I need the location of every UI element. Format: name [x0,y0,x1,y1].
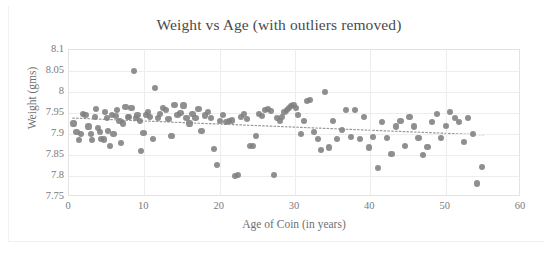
scatter-point [415,135,421,141]
scatter-point [78,131,84,137]
scatter-point [118,140,124,146]
y-axis-label: Weight (gms) [26,38,38,158]
gridline-vertical [370,50,371,195]
scatter-point [375,165,381,171]
scatter-point [434,111,440,117]
scatter-point [97,129,103,135]
scatter-point [126,114,132,120]
scatter-point [101,136,107,142]
scatter-point [131,68,137,74]
page-edge-left [8,6,9,242]
scatter-point [397,118,403,124]
scatter-point [352,107,358,113]
scatter-point [461,139,467,145]
scatter-point [208,115,214,121]
scatter-point [366,144,372,150]
scatter-point [171,102,177,108]
scatter-point [295,112,301,118]
scatter-point [250,143,256,149]
scatter-point [420,152,426,158]
scatter-point [334,136,340,142]
scatter-point [315,136,321,142]
scatter-point [211,146,217,152]
scatter-point [217,118,223,124]
chart-title: Weight vs Age (with outliers removed) [0,16,558,34]
scatter-point [311,129,317,135]
scatter-point [339,127,345,133]
x-tick-label: 30 [274,200,314,211]
scatter-point [348,134,354,140]
scatter-point [470,131,476,137]
scatter-point [465,115,471,121]
gridline-horizontal [69,92,519,93]
scatter-point [180,102,186,108]
scatter-point [186,120,192,126]
x-axis-tick-labels: 0102030405060 [68,200,520,214]
gridline-vertical [295,50,296,195]
scatter-point [107,143,113,149]
x-tick-label: 60 [500,200,540,211]
scatter-point [343,107,349,113]
scatter-point [165,116,171,122]
scatter-point [379,119,385,125]
scatter-point [229,117,235,123]
scatter-point [447,109,453,115]
scatter-point [134,112,140,118]
gridline-horizontal [69,134,519,135]
scatter-point [268,108,274,114]
scatter-point [220,112,226,118]
scatter-point [456,119,462,125]
scatter-point [253,133,259,139]
scatter-point [120,120,126,126]
scatter-point [318,147,324,153]
scatter-point [114,107,120,113]
scatter-point [244,116,250,122]
scatter-point [235,172,241,178]
scatter-point [424,144,430,150]
scatter-point [429,119,435,125]
plot-area [68,49,520,196]
scatter-point [259,113,265,119]
scatter-point [128,105,134,111]
scatter-point [214,162,220,168]
scatter-point [70,120,76,126]
scatter-point [198,128,204,134]
gridline-horizontal [69,155,519,156]
scatter-point [406,114,412,120]
scatter-point [393,123,399,129]
scatter-point [140,130,146,136]
x-tick-label: 10 [123,200,163,211]
scatter-point [293,105,299,111]
scatter-point [76,137,82,143]
scatter-point [150,136,156,142]
page-edge-bottom [8,241,544,242]
scatter-point [411,123,417,129]
x-axis-label: Age of Coin (in years) [68,218,520,230]
x-tick-label: 20 [199,200,239,211]
scatter-point [361,114,367,120]
scatter-point [147,114,153,120]
y-axis-tick-labels: 7.757.87.857.97.9588.058.1 [16,49,64,196]
scatter-point [137,118,143,124]
scatter-point [443,123,449,129]
scatter-point [384,135,390,141]
scatter-point [388,151,394,157]
scatter-point [110,131,116,137]
x-tick-label: 50 [425,200,465,211]
scatter-point [92,114,98,120]
scatter-point [402,143,408,149]
y-tick-label: 7.8 [20,169,64,180]
scatter-chart-figure: Weight vs Age (with outliers removed) 7.… [0,0,558,256]
scatter-point [438,135,444,141]
scatter-point [192,115,198,121]
scatter-point [279,114,285,120]
x-tick-label: 0 [48,200,88,211]
scatter-point [298,131,304,137]
scatter-point [163,107,169,113]
scatter-point [479,164,485,170]
scatter-point [271,172,277,178]
scatter-point [357,136,363,142]
scatter-point [195,106,201,112]
scatter-point [474,180,480,186]
scatter-point [326,144,332,150]
